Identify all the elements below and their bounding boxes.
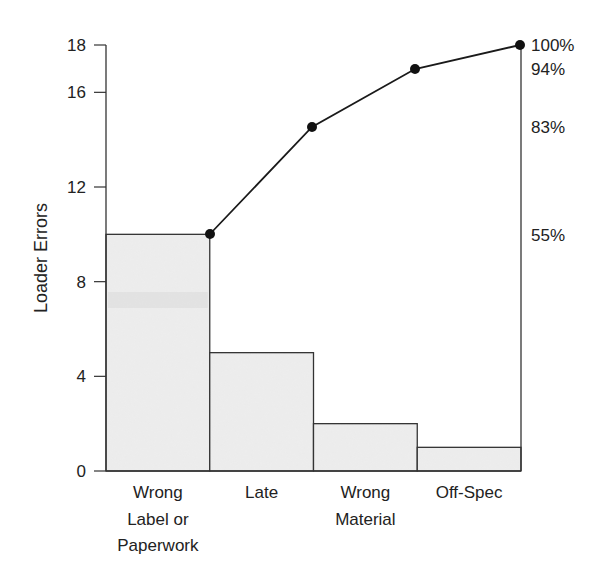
- y-tick-label: 0: [77, 462, 86, 481]
- bar: [417, 447, 521, 471]
- cumulative-percent-label: 55%: [531, 226, 565, 245]
- x-category-label: Off-Spec: [436, 483, 503, 502]
- x-category-label: WrongLabel orPaperwork: [117, 483, 199, 555]
- x-category-label: Late: [245, 483, 278, 502]
- cumulative-marker: [205, 229, 215, 239]
- bar: [314, 424, 418, 471]
- cumulative-marker: [515, 40, 525, 50]
- y-tick-label: 16: [67, 83, 86, 102]
- cumulative-percent-label: 83%: [531, 118, 565, 137]
- y-tick-label: 12: [67, 178, 86, 197]
- y-tick-label: 4: [77, 367, 86, 386]
- bars-group: [106, 234, 521, 471]
- bar: [106, 234, 210, 471]
- scan-band: [108, 292, 208, 308]
- bar: [210, 353, 314, 471]
- x-category-label: WrongMaterial: [335, 483, 395, 529]
- cumulative-marker: [307, 122, 317, 132]
- y-axis-title: Loader Errors: [31, 203, 51, 313]
- cumulative-marker: [410, 64, 420, 74]
- pareto-chart: 048121618Loader ErrorsWrongLabel orPaper…: [0, 0, 601, 577]
- cumulative-percent-label: 100%: [531, 36, 574, 55]
- cumulative-percent-label: 94%: [531, 60, 565, 79]
- y-tick-label: 8: [77, 273, 86, 292]
- cumulative-line: [210, 45, 520, 234]
- cumulative-line-group: [205, 40, 525, 239]
- y-tick-label: 18: [67, 36, 86, 55]
